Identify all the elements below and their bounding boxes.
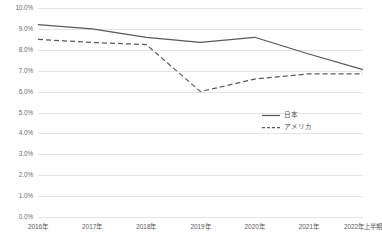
y-axis-tick-label: 4.0% [19,130,33,136]
x-axis-tick-label: 2020年 [245,224,265,230]
y-axis-tick-label: 8.0% [19,47,33,53]
gridline [38,217,363,218]
y-axis-tick-label: 0.0% [19,214,33,220]
series-layer [38,8,363,217]
y-axis-tick-label: 1.0% [19,193,33,199]
y-axis-tick-label: 9.0% [19,26,33,32]
y-axis-tick-label: 10.0% [15,5,33,11]
legend-label: アメリカ [284,124,312,131]
series-line-1 [38,25,363,70]
y-axis-tick-label: 7.0% [19,67,33,73]
y-axis-tick-label: 3.0% [19,151,33,157]
series-line-2 [38,39,363,91]
legend-swatch-dashed [262,124,280,131]
plot-area [38,8,363,217]
y-axis-tick-label: 6.0% [19,88,33,94]
y-axis: 0.0%1.0%2.0%3.0%4.0%5.0%6.0%7.0%8.0%9.0%… [0,0,33,242]
x-axis-tick-label: 2019年 [190,224,210,230]
x-axis-tick-label: 2022年上半期 [344,224,382,230]
legend-item: アメリカ [262,124,312,131]
x-axis-tick-label: 2018年 [136,224,156,230]
legend-label: 日本 [284,112,298,119]
legend-item: 日本 [262,112,312,119]
x-axis-tick-label: 2016年 [28,224,48,230]
legend-swatch-solid [262,112,280,119]
x-axis: 2016年2017年2018年2019年2020年2021年2022年上半期 [38,224,363,238]
y-axis-tick-label: 5.0% [19,109,33,115]
x-axis-tick-label: 2021年 [299,224,319,230]
y-axis-tick-label: 2.0% [19,172,33,178]
x-axis-tick-label: 2017年 [82,224,102,230]
legend: 日本アメリカ [262,112,312,131]
